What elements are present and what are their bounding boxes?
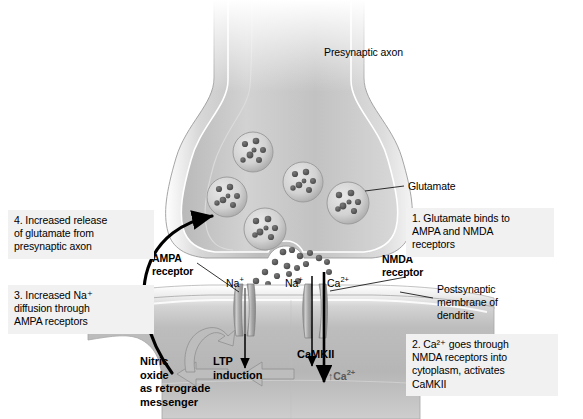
ampa-receptor-label: AMPA receptor (152, 252, 193, 278)
camkii-label: CaMKII (297, 348, 334, 362)
postsynaptic-membrane-label: Postsynaptic membrane of dendrite (437, 283, 498, 321)
vesicle-1 (233, 132, 273, 172)
nmda-receptor-label: NMDA receptor (382, 253, 423, 279)
cytoplasm-calcium-label: ↑Ca2+ (328, 368, 355, 382)
cytoplasm-ca-charge: 2+ (347, 368, 356, 377)
vesicle-3 (283, 162, 323, 202)
ampa-na-charge: + (239, 275, 243, 284)
presynaptic-axon-label: Presynaptic axon (324, 46, 403, 59)
vesicle-5 (327, 182, 369, 224)
figure-canvas: Presynaptic axon Glutamate AMPA receptor… (0, 0, 583, 419)
step-4-callout: 4. Increased release of glutamate from p… (8, 210, 154, 259)
nmda-na-charge: + (298, 275, 302, 284)
vesicle-4 (244, 208, 286, 250)
nmda-ca-ion-label: Ca2+ (327, 275, 349, 289)
cytoplasm-ca-text: ↑Ca (328, 370, 347, 382)
step-1-callout: 1. Glutamate binds to AMPA and NMDA rece… (406, 208, 554, 257)
nmda-ca-charge: 2+ (340, 275, 349, 284)
nitric-oxide-label: Nitric oxide as retrograde messenger (140, 355, 210, 409)
step-3-callout: 3. Increased Na⁺ diffusion through AMPA … (8, 285, 154, 334)
glutamate-label: Glutamate (408, 180, 456, 193)
ltp-induction-label: LTP induction (213, 355, 263, 382)
nmda-na-text: Na (285, 277, 298, 289)
ampa-na-ion-label: Na+ (226, 275, 244, 289)
nmda-na-ion-label: Na+ (285, 275, 303, 289)
ampa-na-text: Na (226, 277, 239, 289)
step-2-callout: 2. Ca²⁺ goes through NMDA receptors into… (406, 334, 558, 396)
nmda-ca-text: Ca (327, 277, 340, 289)
vesicle-2 (207, 177, 247, 217)
